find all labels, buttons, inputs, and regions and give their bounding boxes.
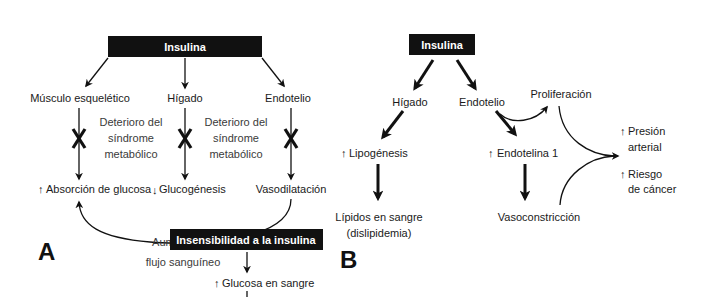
svg-text:Deterioro del: Deterioro del [205, 116, 268, 128]
arrow-to-proliferation [500, 107, 547, 121]
arrow-to-liver-b [415, 60, 433, 88]
muscle-label: Músculo esquelético [30, 92, 130, 104]
cancer-risk-line2: de cáncer [628, 183, 677, 195]
blood-lipids-label: Lípidos en sangre [335, 211, 422, 223]
up-arrow-icon: ↑ [38, 183, 44, 195]
svg-text:síndrome: síndrome [213, 132, 259, 144]
blood-pressure-line1: Presión [628, 125, 665, 137]
figure-insulin-pathways: Insulina Músculo esquelético Hígado Endo… [0, 0, 702, 297]
arrow-to-endothelium-b [457, 60, 475, 88]
insulin-insensitivity-label: Insensibilidad a la insulina [176, 234, 316, 246]
up-arrow-icon: ↑ [341, 147, 347, 159]
arrow-to-endothelin [496, 111, 515, 134]
feedback-line2: flujo sanguíneo [146, 256, 221, 268]
up-arrow-icon: ↑ [620, 168, 626, 180]
panel-b: Insulina Hígado Endotelio ↑ Lipogénesis … [335, 34, 676, 273]
svg-text:Deterioro del: Deterioro del [100, 116, 163, 128]
proliferation-to-outcomes-curve [559, 106, 614, 156]
arrow-to-muscle [86, 58, 108, 86]
up-arrow-icon: ↑ [488, 147, 494, 159]
impairment-note-2: Deterioro del síndrome metabólico [205, 116, 268, 160]
blood-pressure-line2: arterial [628, 141, 662, 153]
impairment-note-1: Deterioro del síndrome metabólico [100, 116, 163, 160]
arrow-to-endothelium-a [262, 58, 284, 86]
endothelin-label: Endotelina 1 [497, 147, 558, 159]
glycogenesis-label: Glucogénesis [159, 183, 226, 195]
proliferation-label: Proliferación [530, 88, 591, 100]
up-arrow-icon: ↑ [214, 277, 220, 289]
liver-label-b: Hígado [392, 96, 427, 108]
endothelium-label-b: Endotelio [459, 96, 505, 108]
lipogenesis-label: Lipogénesis [349, 147, 408, 159]
insulin-box-b-label: Insulina [421, 39, 463, 51]
blood-glucose-label: Glucosa en sangre [222, 277, 314, 289]
vasodilation-label: Vasodilatación [256, 183, 327, 195]
vasoconstriction-to-outcomes-curve [560, 156, 614, 205]
glucose-uptake-label: Absorción de glucosa [46, 183, 152, 195]
vasoconstriction-label: Vasoconstricción [498, 211, 580, 223]
svg-text:metabólico: metabólico [104, 148, 157, 160]
svg-text:síndrome: síndrome [108, 132, 154, 144]
endothelium-label-a: Endotelio [265, 92, 311, 104]
arrow-to-lipogenesis [383, 111, 403, 137]
insulin-box-a-label: Insulina [164, 41, 206, 53]
panel-letter-a: A [38, 238, 55, 265]
liver-label-a: Hígado [167, 92, 202, 104]
up-arrow-icon: ↑ [620, 125, 626, 137]
dyslipidemia-label: (dislipidemia) [347, 227, 412, 239]
cancer-risk-line1: Riesgo [628, 168, 662, 180]
panel-letter-b: B [340, 246, 357, 273]
down-arrow-icon: ↓ [152, 184, 158, 196]
svg-text:metabólico: metabólico [209, 148, 262, 160]
